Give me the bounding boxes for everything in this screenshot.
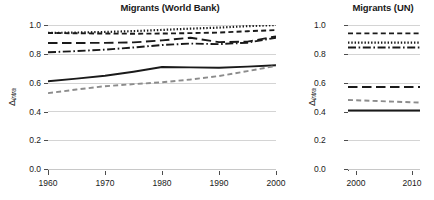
x-label-1990: 1990 <box>199 178 239 188</box>
y-label-r-0.0: 0.0 <box>314 164 326 174</box>
y-axis-subscript: intra <box>10 88 17 100</box>
y-tick-r-0.0 <box>344 169 348 170</box>
y-tick-0.6 <box>44 83 48 84</box>
y-tick-1.0 <box>44 25 48 26</box>
plot-area-left <box>48 25 276 170</box>
x-tick-r-2000 <box>356 171 357 175</box>
x-tick-2000 <box>276 171 277 175</box>
x-label-1970: 1970 <box>85 178 125 188</box>
series-dashed-gray-lower <box>48 66 276 93</box>
x-tick-r-2010 <box>412 171 413 175</box>
x-tick-1970 <box>105 171 106 175</box>
x-tick-1980 <box>162 171 163 175</box>
y-tick-0.2 <box>44 140 48 141</box>
y-label-0.2: 0.2 <box>14 135 41 145</box>
y-axis-delta-symbol-right: Δ <box>307 100 317 106</box>
y-axis-delta-symbol: Δ <box>7 100 17 106</box>
panel-title-world-bank: Migrants (World Bank) <box>0 2 314 13</box>
y-label-r-1.0: 1.0 <box>314 20 326 30</box>
x-tick-1990 <box>219 171 220 175</box>
y-label-0.6: 0.6 <box>14 78 41 88</box>
y-tick-0.8 <box>44 54 48 55</box>
series-dotted-upper <box>48 25 276 33</box>
chart-figure: Migrants (World Bank) Δintra 1.0 0.8 0.6… <box>0 0 434 200</box>
panel-migrants-world-bank: Migrants (World Bank) Δintra 1.0 0.8 0.6… <box>0 0 288 200</box>
x-label-1960: 1960 <box>28 178 68 188</box>
y-label-0.8: 0.8 <box>14 49 41 59</box>
series-dashed-gray-mid <box>348 100 420 103</box>
y-tick-r-0.6 <box>344 83 348 84</box>
y-label-0.4: 0.4 <box>14 107 41 117</box>
series-layer-right <box>348 25 420 170</box>
series-long-dash-upper <box>48 36 276 43</box>
y-tick-r-0.4 <box>344 112 348 113</box>
x-label-r-2010: 2010 <box>392 178 432 188</box>
y-axis-subscript-right: intra <box>310 88 317 100</box>
y-label-r-0.4: 0.4 <box>314 107 326 117</box>
y-label-0.0: 0.0 <box>14 164 41 174</box>
x-tick-1960 <box>48 171 49 175</box>
y-tick-0.4 <box>44 112 48 113</box>
series-solid-lower <box>48 65 276 81</box>
y-tick-0.0 <box>44 169 48 170</box>
y-tick-r-0.8 <box>344 54 348 55</box>
x-label-r-2000: 2000 <box>336 178 376 188</box>
y-label-r-0.8: 0.8 <box>314 49 326 59</box>
x-label-1980: 1980 <box>142 178 182 188</box>
y-label-1.0: 1.0 <box>14 20 41 30</box>
plot-area-right <box>348 25 420 170</box>
y-tick-r-1.0 <box>344 25 348 26</box>
y-tick-r-0.2 <box>344 140 348 141</box>
y-label-r-0.6: 0.6 <box>314 78 326 88</box>
panel-title-un: Migrants (UN) <box>288 2 434 13</box>
series-layer-left <box>48 25 276 170</box>
y-label-r-0.2: 0.2 <box>314 135 326 145</box>
